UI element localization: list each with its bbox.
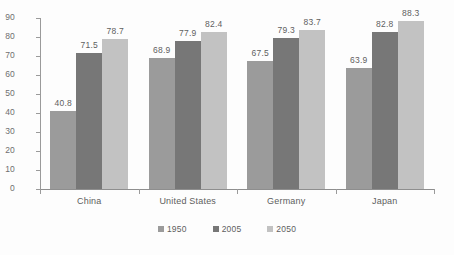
bar-germany-2050[interactable]: 83.7 [299, 30, 325, 189]
bar-value-label: 77.9 [179, 28, 196, 38]
y-axis-tick-label: 90 [5, 12, 15, 22]
bar-value-label: 79.3 [278, 25, 295, 35]
category-label-germany: Germany [237, 196, 336, 206]
legend-item-2050[interactable]: 2050 [267, 224, 296, 234]
category-labels: ChinaUnited StatesGermanyJapan [40, 196, 434, 206]
bar-value-label: 78.7 [107, 26, 124, 36]
legend-item-1950[interactable]: 1950 [158, 224, 187, 234]
y-axis-tick-label: 70 [5, 50, 15, 60]
bar-value-label: 68.9 [153, 45, 170, 55]
x-axis-separator [40, 189, 41, 194]
bar-group-bars: 67.579.383.7 [237, 18, 336, 189]
y-axis-tick-label: 0 [10, 183, 15, 193]
y-axis-tick-label: 50 [5, 88, 15, 98]
bar-china-1950[interactable]: 40.8 [50, 111, 76, 189]
category-label-united-states: United States [139, 196, 238, 206]
bar-group-germany: 67.579.383.7 [237, 18, 336, 189]
bar-group-united-states: 68.977.982.4 [139, 18, 238, 189]
y-axis-tick-label: 20 [5, 145, 15, 155]
x-axis-separator [237, 189, 238, 194]
bar-value-label: 71.5 [81, 40, 98, 50]
bar-group-bars: 63.982.888.3 [336, 18, 435, 189]
legend-item-2005[interactable]: 2005 [213, 224, 242, 234]
bar-group-china: 40.871.578.7 [40, 18, 139, 189]
bar-group-japan: 63.982.888.3 [336, 18, 435, 189]
bar-group-bars: 40.871.578.7 [40, 18, 139, 189]
x-axis-separator [434, 189, 435, 194]
bar-value-label: 63.9 [350, 55, 367, 65]
bar-group-bars: 68.977.982.4 [139, 18, 238, 189]
bar-chart: 0102030405060708090 40.871.578.768.977.9… [0, 0, 454, 255]
bar-japan-2005[interactable]: 82.8 [372, 32, 398, 189]
x-axis-separator [336, 189, 337, 194]
legend-swatch-icon [267, 226, 273, 232]
legend-label: 1950 [167, 224, 187, 234]
bar-value-label: 67.5 [252, 48, 269, 58]
y-axis-tick-label: 60 [5, 69, 15, 79]
bar-united-states-2005[interactable]: 77.9 [175, 41, 201, 189]
bar-china-2005[interactable]: 71.5 [76, 53, 102, 189]
legend-swatch-icon [213, 226, 219, 232]
bar-united-states-2050[interactable]: 82.4 [201, 32, 227, 189]
bar-china-2050[interactable]: 78.7 [102, 39, 128, 189]
y-axis-tick-label: 40 [5, 107, 15, 117]
bar-japan-1950[interactable]: 63.9 [346, 68, 372, 189]
bar-germany-1950[interactable]: 67.5 [247, 61, 273, 189]
legend-label: 2050 [276, 224, 296, 234]
bar-value-label: 82.4 [205, 19, 222, 29]
bar-value-label: 88.3 [402, 8, 419, 18]
legend-swatch-icon [158, 226, 164, 232]
category-label-japan: Japan [336, 196, 435, 206]
y-axis-tick-label: 10 [5, 164, 15, 174]
category-label-china: China [40, 196, 139, 206]
y-axis-tick-label: 30 [5, 126, 15, 136]
legend-label: 2005 [222, 224, 242, 234]
bar-united-states-1950[interactable]: 68.9 [149, 58, 175, 189]
bar-japan-2050[interactable]: 88.3 [398, 21, 424, 189]
bar-value-label: 83.7 [304, 17, 321, 27]
bar-value-label: 82.8 [376, 19, 393, 29]
bar-groups: 40.871.578.768.977.982.467.579.383.763.9… [40, 18, 434, 189]
bar-germany-2005[interactable]: 79.3 [273, 38, 299, 189]
x-axis-separator [139, 189, 140, 194]
bar-value-label: 40.8 [55, 98, 72, 108]
y-axis-tick-label: 80 [5, 31, 15, 41]
chart-legend: 195020052050 [0, 224, 454, 234]
